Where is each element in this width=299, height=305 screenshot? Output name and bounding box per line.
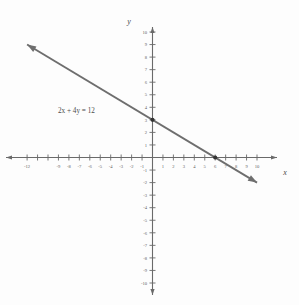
x-tick-label--8: -8	[67, 164, 72, 169]
axes-group	[6, 27, 277, 295]
x-tick-label-5: 5	[204, 164, 207, 169]
line-lower-right-arrowhead	[248, 175, 257, 182]
x-axis-label: x	[282, 168, 287, 177]
y-tick-label--3: -3	[143, 193, 148, 198]
y-tick-label-6: 6	[145, 80, 148, 85]
x-tick-label--7: -7	[77, 164, 82, 169]
x-tick-label-10: 10	[255, 164, 260, 169]
x-axis-ticks: -12-9-8-7-6-5-4-3-2-112345678910	[24, 155, 260, 170]
x-tick-label-4: 4	[193, 164, 196, 169]
x-tick-label--12: -12	[24, 164, 31, 169]
line-upper-left-arrowhead	[27, 45, 36, 52]
y-tick-label-3: 3	[145, 118, 148, 123]
x-axis-right-arrow	[271, 155, 277, 159]
y-axis-bottom-arrow	[150, 289, 154, 295]
y-tick-label-7: 7	[145, 67, 148, 72]
y-tick-label-10: 10	[142, 30, 147, 35]
y-tick-label-2: 2	[145, 130, 148, 135]
y-tick-label-1: 1	[145, 143, 148, 148]
y-tick-label-8: 8	[145, 55, 148, 60]
x-tick-label--9: -9	[57, 164, 62, 169]
x-tick-label-9: 9	[245, 164, 248, 169]
coordinate-plane-chart: -12-9-8-7-6-5-4-3-2-112345678910 -10-9-8…	[0, 0, 299, 305]
y-intercept-point	[150, 118, 154, 122]
x-tick-label-3: 3	[183, 164, 186, 169]
x-tick-label--3: -3	[119, 164, 124, 169]
x-tick-label--2: -2	[130, 164, 135, 169]
y-tick-label--10: -10	[141, 281, 148, 286]
x-tick-label-1: 1	[162, 164, 165, 169]
x-tick-label--4: -4	[109, 164, 114, 169]
x-tick-label--5: -5	[98, 164, 103, 169]
x-tick-label--6: -6	[88, 164, 93, 169]
y-tick-label-4: 4	[145, 105, 148, 110]
y-tick-label--9: -9	[143, 268, 148, 273]
y-tick-label--1: -1	[143, 168, 148, 173]
x-tick-label-2: 2	[172, 164, 175, 169]
y-tick-label--5: -5	[143, 218, 148, 223]
y-tick-label--2: -2	[143, 180, 148, 185]
y-tick-label--8: -8	[143, 256, 148, 261]
equation-annotation: 2x + 4y = 12	[58, 107, 95, 115]
x-tick-label-6: 6	[214, 164, 217, 169]
x-tick-label-8: 8	[235, 164, 238, 169]
y-tick-label-5: 5	[145, 92, 148, 97]
y-tick-label--7: -7	[143, 243, 148, 248]
y-tick-label-9: 9	[145, 42, 148, 47]
y-axis-label: y	[126, 17, 131, 26]
y-tick-label--4: -4	[143, 205, 148, 210]
x-intercept-point	[213, 155, 217, 159]
x-axis-left-arrow	[6, 155, 12, 159]
graph-container: -12-9-8-7-6-5-4-3-2-112345678910 -10-9-8…	[0, 0, 299, 305]
y-tick-label--6: -6	[143, 231, 148, 236]
